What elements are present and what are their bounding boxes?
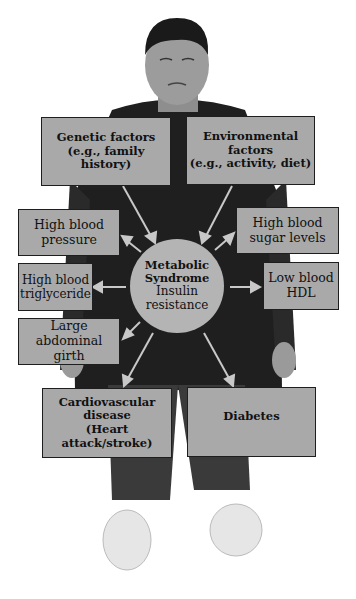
component-large-abdominal-girth: Large abdominal girth	[18, 318, 120, 365]
component-sugar-line1: High blood	[253, 216, 323, 231]
outcome-diabetes: Diabetes	[187, 387, 316, 457]
component-sugar-line2: sugar levels	[249, 231, 325, 246]
outcome-cardiovascular-disease: Cardiovascular disease (Heart attack/str…	[42, 388, 172, 458]
component-girth-line1: Large abdominal	[19, 319, 119, 349]
outcome-cvd-line3: (Heart attack/stroke)	[43, 423, 171, 450]
component-high-blood-pressure: High blood pressure	[18, 209, 120, 256]
cause-environmental-line1: Environmental	[203, 130, 298, 144]
component-hdl-line2: HDL	[286, 286, 315, 301]
metabolic-syndrome-center: Metabolic Syndrome Insulin resistance	[130, 239, 224, 333]
component-bp-line1: High blood	[34, 218, 104, 233]
component-girth-line2: girth	[53, 349, 84, 364]
component-hdl-line1: Low blood	[268, 271, 334, 286]
cause-environmental-factors: Environmental factors (e.g., activity, d…	[186, 116, 315, 185]
metabolic-syndrome-figure: Genetic factors (e.g., family history) E…	[0, 0, 356, 599]
outcome-cvd-line1: Cardiovascular	[59, 396, 156, 410]
cause-genetic-line1: Genetic factors	[57, 131, 155, 145]
component-trig-line2: triglyceride	[20, 287, 91, 301]
cause-genetic-line2: (e.g., family history)	[42, 145, 170, 172]
component-trig-line1: High blood	[22, 273, 89, 287]
component-bp-line2: pressure	[41, 233, 97, 248]
outcome-cvd-line2: disease	[83, 409, 130, 423]
component-high-blood-sugar: High blood sugar levels	[236, 207, 339, 254]
outcome-diabetes-line1: Diabetes	[223, 410, 279, 424]
cause-environmental-line2: factors	[228, 144, 273, 158]
center-subtitle-line1: Insulin	[156, 285, 198, 299]
center-subtitle-line2: resistance	[146, 299, 209, 313]
cause-genetic-factors: Genetic factors (e.g., family history)	[41, 117, 171, 186]
component-high-blood-triglyceride: High blood triglyceride	[18, 263, 93, 311]
component-low-blood-hdl: Low blood HDL	[263, 262, 339, 310]
cause-environmental-line3: (e.g., activity, diet)	[190, 157, 311, 171]
